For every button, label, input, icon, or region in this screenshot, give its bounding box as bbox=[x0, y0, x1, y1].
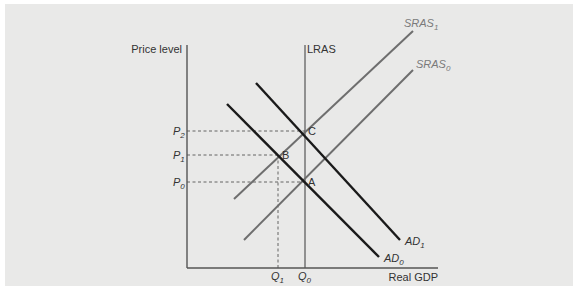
ad0-label: AD0 bbox=[383, 252, 404, 267]
point-a-label: A bbox=[308, 176, 316, 188]
sras1-label: SRAS1 bbox=[404, 17, 438, 32]
point-c-label: C bbox=[308, 125, 316, 137]
ad1-label: AD1 bbox=[404, 235, 425, 250]
q0-label: Q0 bbox=[298, 270, 312, 285]
p1-label: P1 bbox=[173, 149, 185, 164]
x-axis-label: Real GDP bbox=[388, 271, 438, 283]
ad-as-diagram: Price level Real GDP LRAS SRAS1 SRAS0 AD… bbox=[0, 0, 580, 299]
lras-label: LRAS bbox=[307, 43, 336, 55]
point-b-label: B bbox=[282, 149, 289, 161]
sras1-line bbox=[234, 31, 413, 199]
p0-label: P0 bbox=[173, 176, 185, 191]
sras0-line bbox=[244, 70, 413, 240]
p2-label: P2 bbox=[173, 125, 185, 140]
q1-label: Q1 bbox=[271, 270, 284, 285]
y-axis-label: Price level bbox=[131, 43, 182, 55]
sras0-label: SRAS0 bbox=[416, 58, 451, 73]
